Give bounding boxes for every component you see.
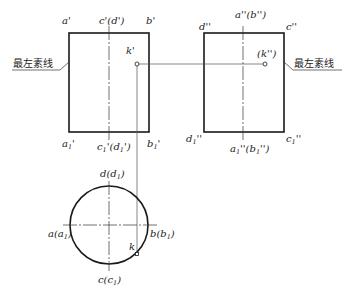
label-a1-double-prime-b1-double-prime: a1''(b1'') xyxy=(230,143,270,156)
right-note: 最左素线 xyxy=(294,57,334,69)
label-a1-prime: a1' xyxy=(62,138,75,151)
label-d-double-prime: d'' xyxy=(199,21,211,32)
label-b-b1: b(b1) xyxy=(150,228,175,241)
left-note: 最左素线 xyxy=(13,57,53,69)
label-k-prime: k' xyxy=(126,45,135,56)
point-k-prime xyxy=(135,62,139,66)
label-d-d1: d(d1) xyxy=(100,168,125,181)
label-c-c1: c(c1) xyxy=(98,274,121,287)
label-c1-double-prime: c1'' xyxy=(286,133,301,146)
label-c-prime-d-prime: c'(d') xyxy=(99,15,124,26)
label-b1-prime: b1' xyxy=(147,138,160,151)
label-c1-prime-d1-prime: c1'(d1') xyxy=(97,141,131,154)
label-d1-double-prime: d1'' xyxy=(186,133,202,146)
label-b-prime: b' xyxy=(146,15,155,26)
label-c-double-prime: c'' xyxy=(286,21,297,32)
label-a-double-prime-b-double-prime: a''(b'') xyxy=(235,9,266,20)
label-a-prime: a' xyxy=(62,15,71,26)
point-k-double-prime xyxy=(263,62,267,66)
point-k xyxy=(136,253,139,256)
projection-diagram: a' c'(d') b' k' a1' c1'(d1') b1' d'' a''… xyxy=(0,0,349,296)
label-k: k xyxy=(129,241,135,252)
label-k-double-prime: (k'') xyxy=(257,48,276,59)
label-a-a1: a(a1) xyxy=(48,228,72,241)
